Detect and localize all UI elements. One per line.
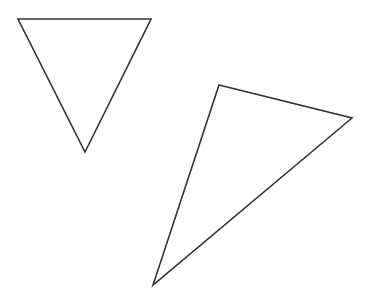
inverted-triangle bbox=[18, 19, 151, 152]
diagram-canvas bbox=[0, 0, 374, 301]
scalene-triangle bbox=[153, 85, 352, 285]
